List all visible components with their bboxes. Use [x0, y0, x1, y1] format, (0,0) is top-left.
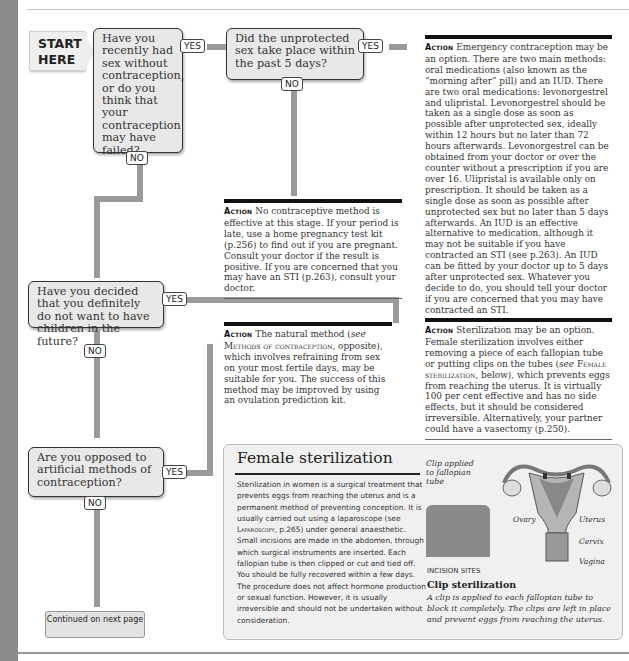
- panel-rule: [235, 473, 420, 475]
- action-emergency-contraception: ActionEmergency contraception may be an …: [425, 35, 612, 321]
- yes-badge[interactable]: YES: [180, 39, 205, 53]
- action-no-method: ActionNo contraceptive method is effecti…: [224, 199, 402, 299]
- female-sterilization-panel: Female sterilization Sterilization in wo…: [223, 444, 623, 640]
- panel-title: Female sterilization: [237, 449, 393, 467]
- label-ovary: Ovary: [513, 515, 536, 524]
- connector-q3-yes-down: [393, 297, 399, 323]
- no-badge[interactable]: NO: [84, 496, 106, 510]
- connector-q1-no-c: [94, 196, 100, 278]
- question-text: Have you recently had sex without contra…: [102, 32, 184, 157]
- connector-q4-no: [94, 497, 100, 607]
- label-cervix: Cervix: [579, 537, 604, 546]
- clip-caption: Clip applied to fallopian tube: [426, 459, 476, 486]
- start-marker: START HERE: [29, 31, 85, 71]
- connector-q1-no-b: [94, 196, 143, 202]
- panel-body: Sterilization in women is a surgical tre…: [237, 479, 427, 626]
- clip-sterilization-description: A clip is applied to each fallopian tube…: [427, 592, 617, 625]
- yes-badge[interactable]: YES: [162, 292, 187, 306]
- incision-sites-illustration: [426, 505, 490, 557]
- label-uterus: Uterus: [579, 515, 605, 524]
- continued-next-page[interactable]: Continued on next page: [45, 611, 145, 638]
- action-label: Action: [425, 326, 453, 335]
- question-text: Are you opposed to artificial methods of…: [37, 451, 151, 489]
- no-badge[interactable]: NO: [126, 151, 148, 165]
- question-box-recent-sex: Have you recently had sex without contra…: [93, 28, 183, 153]
- action-natural-method: ActionThe natural method (see Methods of…: [224, 322, 392, 410]
- cross-reference-link[interactable]: Methods of contraception: [224, 341, 332, 351]
- action-label: Action: [224, 330, 252, 339]
- no-badge[interactable]: NO: [281, 77, 303, 91]
- connector-q2-no: [291, 90, 297, 196]
- connector-q2-yes: [389, 44, 407, 50]
- question-box-no-children: Have you decided that you definitely do …: [28, 281, 164, 328]
- yes-badge[interactable]: YES: [358, 39, 383, 53]
- question-box-opposed-artificial: Are you opposed to artificial methods of…: [28, 447, 164, 497]
- question-text: Did the unprotected sex take place withi…: [235, 32, 355, 70]
- connector-q1-yes: [207, 44, 227, 50]
- cross-reference-link[interactable]: Laparoscopy: [237, 525, 275, 534]
- bottom-rule: [18, 652, 629, 654]
- action-label: Action: [425, 43, 453, 52]
- clip-sterilization-title: Clip sterilization: [427, 579, 516, 590]
- top-rule: [27, 9, 629, 10]
- yes-badge[interactable]: YES: [162, 465, 187, 479]
- connector-q4-yes-up: [207, 344, 213, 476]
- action-text: No contraceptive method is effective at …: [224, 206, 398, 293]
- uterus-illustration: [494, 453, 619, 563]
- action-text: Emergency contraception may be an option…: [425, 42, 609, 315]
- connector-q1-no-a: [137, 162, 143, 198]
- label-vagina: Vagina: [579, 557, 605, 566]
- page-edge-strip: [0, 0, 18, 661]
- incision-sites-label: INCISION SITES: [427, 567, 480, 575]
- no-badge[interactable]: NO: [84, 344, 106, 358]
- connector-q3-no: [94, 322, 100, 438]
- action-label: Action: [224, 207, 252, 216]
- action-sterilization: ActionSterilization may be an option. Fe…: [425, 318, 612, 440]
- question-box-within-5-days: Did the unprotected sex take place withi…: [226, 28, 364, 80]
